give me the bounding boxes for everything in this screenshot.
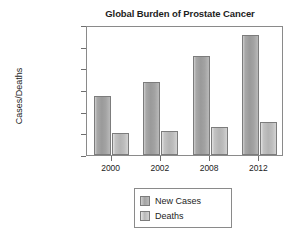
- legend-swatch-icon: [140, 211, 150, 221]
- bar-new-cases-2012: [242, 35, 259, 155]
- x-axis-tick-mark: [258, 156, 259, 161]
- bar-new-cases-2002: [143, 82, 160, 155]
- legend-item-label: Deaths: [155, 211, 184, 221]
- x-axis-tick-mark: [209, 156, 210, 161]
- x-axis-tick-label: 2002: [135, 163, 185, 173]
- x-axis-tick-label: 2012: [233, 163, 283, 173]
- chart-title: Global Burden of Prostate Cancer: [70, 8, 290, 19]
- bar-new-cases-2000: [94, 96, 111, 155]
- x-axis-tick-label: 2000: [86, 163, 136, 173]
- bar-deaths-2008: [211, 127, 228, 155]
- x-axis-tick-mark: [160, 156, 161, 161]
- legend-item-label: New Cases: [155, 196, 201, 206]
- x-axis-tick-label: 2008: [184, 163, 234, 173]
- bar-deaths-2002: [161, 131, 178, 155]
- legend-swatch-icon: [140, 196, 150, 206]
- bar-new-cases-2008: [193, 56, 210, 155]
- bar-deaths-2012: [260, 122, 277, 155]
- legend-entries: New CasesDeaths: [140, 193, 226, 223]
- x-axis-tick-mark: [111, 156, 112, 161]
- chart-legend: New CasesDeaths: [134, 188, 232, 228]
- legend-item-deaths[interactable]: Deaths: [140, 208, 226, 223]
- bar-chart: Global Burden of Prostate Cancer Cases/D…: [0, 0, 297, 241]
- y-axis-tick-mark: [81, 156, 86, 157]
- y-axis-title: Cases/Deaths: [14, 36, 24, 156]
- bar-deaths-2000: [112, 133, 129, 155]
- plot-area: [86, 26, 283, 156]
- legend-item-new-cases[interactable]: New Cases: [140, 193, 226, 208]
